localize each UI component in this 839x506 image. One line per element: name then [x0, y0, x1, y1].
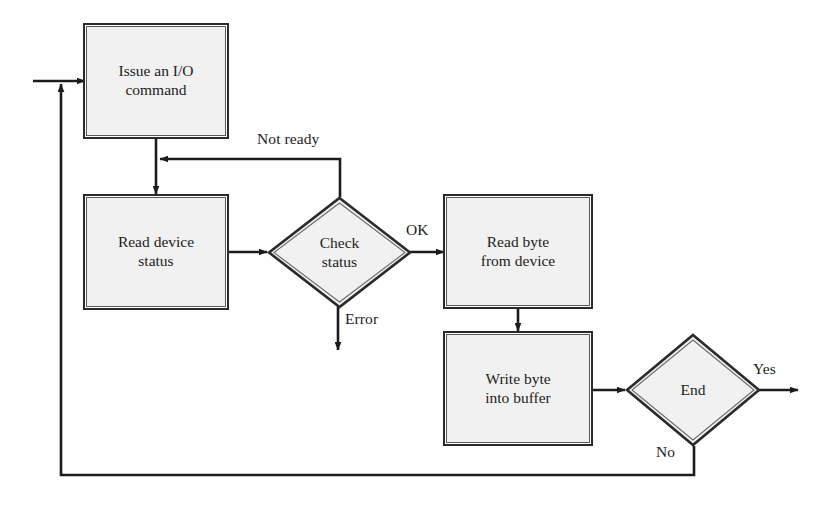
node-check-status-label: Check status — [269, 198, 410, 307]
edge-check-not-ready-loop — [160, 159, 340, 197]
node-label-text: Check status — [320, 234, 360, 272]
node-label-text: Issue an I/O command — [119, 62, 194, 100]
node-label-text: Read byte from device — [481, 233, 555, 271]
node-read-byte-from-device-label: Read byte from device — [446, 197, 590, 306]
node-label-text: Write byte into buffer — [485, 370, 551, 408]
node-end-label: End — [627, 335, 759, 445]
flowchart-canvas: Issue an I/O command Read device status … — [0, 0, 839, 506]
edge-label-ok: OK — [406, 221, 429, 238]
node-label-text: End — [681, 381, 706, 400]
node-read-device-status-label: Read device status — [86, 197, 226, 307]
edge-label-error: Error — [345, 310, 378, 327]
edge-label-yes: Yes — [753, 360, 776, 377]
edge-label-not-ready: Not ready — [257, 130, 319, 147]
node-issue-io-command-label: Issue an I/O command — [86, 26, 226, 136]
edge-label-no: No — [656, 443, 675, 460]
node-write-byte-into-buffer-label: Write byte into buffer — [446, 334, 590, 443]
node-label-text: Read device status — [118, 233, 194, 271]
